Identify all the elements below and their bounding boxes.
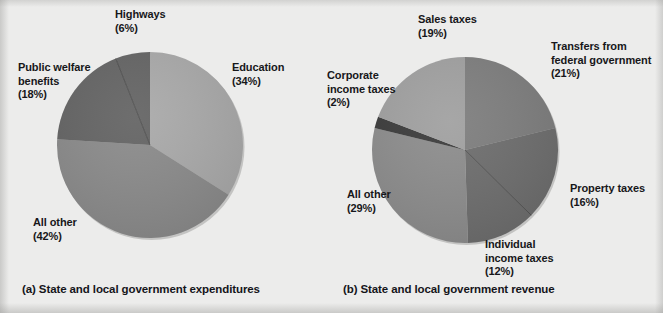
slice-label-public-welfare-line1: Public welfare (18, 61, 91, 73)
slice-label-corporate-line1: Corporate (327, 69, 379, 81)
pie-chart-revenue (370, 55, 560, 245)
caption-panel-a: (a) State and local government expenditu… (22, 283, 260, 295)
slice-label-property-taxes: Property taxes (16%) (570, 182, 645, 209)
slice-label-property-taxes-pct: (16%) (570, 196, 645, 210)
pie-svg-revenue (370, 55, 560, 245)
slice-label-individual-line1: Individual (485, 238, 535, 250)
slice-label-corporate-income-taxes: Corporate income taxes (2%) (327, 69, 396, 110)
slice-label-all-other-expenditures-name: All other (33, 216, 77, 228)
slice-label-all-other-expenditures-pct: (42%) (33, 230, 77, 244)
slice-label-all-other-expenditures: All other (42%) (33, 216, 77, 243)
slice-label-individual-line2: income taxes (485, 252, 554, 266)
panel-expenditures: Highways (6%) Public welfare benefits (1… (0, 0, 333, 313)
slice-label-all-other-revenue-name: All other (347, 188, 391, 200)
slice-label-education-pct: (34%) (232, 75, 284, 89)
slice-label-transfers: Transfers from federal government (21%) (551, 40, 651, 81)
slice-label-sales-taxes: Sales taxes (19%) (418, 13, 477, 40)
caption-panel-b: (b) State and local government revenue (343, 283, 555, 295)
slice-label-public-welfare-pct: (18%) (18, 88, 91, 102)
slice-label-education: Education (34%) (232, 61, 284, 88)
slice-label-individual-income-taxes: Individual income taxes (12%) (485, 238, 554, 279)
slice-label-sales-taxes-pct: (19%) (418, 27, 477, 41)
slice-label-transfers-pct: (21%) (551, 67, 651, 81)
slice-label-property-taxes-name: Property taxes (570, 182, 645, 194)
slice-label-corporate-line2: income taxes (327, 83, 396, 97)
slice-label-individual-pct: (12%) (485, 265, 554, 279)
slice-label-highways-name: Highways (115, 8, 166, 20)
slice-label-public-welfare: Public welfare benefits (18%) (18, 61, 91, 102)
slice-label-corporate-pct: (2%) (327, 96, 396, 110)
slice-label-transfers-line2: federal government (551, 54, 651, 68)
figure-container: Highways (6%) Public welfare benefits (1… (0, 0, 663, 313)
slice-label-highways-pct: (6%) (115, 22, 166, 36)
slice-label-all-other-revenue-pct: (29%) (347, 202, 391, 216)
slice-label-highways: Highways (6%) (115, 8, 166, 35)
panel-revenue: Sales taxes (19%) Transfers from federal… (333, 0, 663, 313)
slice-label-transfers-line1: Transfers from (551, 40, 627, 52)
slice-label-all-other-revenue: All other (29%) (347, 188, 391, 215)
slice-label-sales-taxes-name: Sales taxes (418, 13, 477, 25)
slice-label-education-name: Education (232, 61, 284, 73)
slice-label-public-welfare-line2: benefits (18, 75, 91, 89)
